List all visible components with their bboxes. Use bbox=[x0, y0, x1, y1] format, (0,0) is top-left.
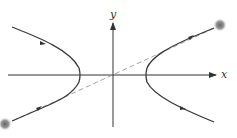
x-axis-label: x bbox=[221, 68, 228, 81]
y-axis-label: y bbox=[109, 8, 117, 21]
left-hyperbola-branch bbox=[12, 27, 80, 121]
asymptote-end-dot bbox=[0, 117, 12, 131]
asymptote-end-dot bbox=[213, 18, 227, 32]
hyperbola-diagram: x y bbox=[0, 0, 237, 138]
